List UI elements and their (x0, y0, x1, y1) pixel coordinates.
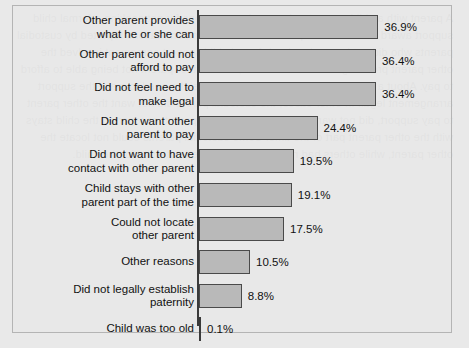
bar-category-label: Did not want other parent to pay (14, 114, 194, 141)
bar-chart-row: Child stays with other parent part of th… (13, 183, 453, 207)
bar-chart-row: Did not want other parent to pay24.4% (13, 116, 453, 140)
bar-value-label: 24.4% (324, 122, 357, 134)
bar-chart-row: Other reasons10.5% (13, 250, 453, 274)
bar-chart-row: Other parent could not afford to pay36.4… (13, 49, 453, 73)
bar-category-label: Other parent provides what he or she can (14, 14, 194, 41)
bar-category-label: Did not feel need to make legal (14, 81, 194, 108)
bar-value-label: 19.1% (298, 189, 331, 201)
bar-category-label: Did not want to have contact with other … (14, 148, 194, 175)
bar (199, 217, 284, 241)
bar-category-label: Other parent could not afford to pay (14, 47, 194, 74)
bar-category-label: Child was too old (14, 323, 194, 337)
bar-value-label: 19.5% (300, 155, 333, 167)
bar (199, 284, 242, 308)
bar-chart-row: Child was too old0.1% (13, 317, 453, 341)
bar (199, 183, 292, 207)
bar-chart-row: Did not legally establish paternity8.8% (13, 284, 453, 308)
bar (199, 149, 294, 173)
value-axis-baseline (197, 10, 199, 326)
bar (199, 15, 378, 39)
bar-value-label: 36.4% (382, 55, 415, 67)
bar-category-label: Could not locate other parent (14, 215, 194, 242)
bar (199, 250, 250, 274)
bar-chart-row: Could not locate other parent17.5% (13, 217, 453, 241)
bar-value-label: 36.9% (384, 21, 417, 33)
bar (199, 317, 201, 341)
bar (199, 82, 376, 106)
bar-value-label: 10.5% (256, 256, 289, 268)
bar-category-label: Other reasons (14, 255, 194, 269)
bar-value-label: 0.1% (207, 323, 233, 335)
bar-value-label: 36.4% (382, 88, 415, 100)
bar-chart-plot-area: Other parent provides what he or she can… (13, 6, 453, 334)
chart-frame: Other parent provides what he or she can… (12, 5, 452, 333)
bar-value-label: 17.5% (290, 223, 323, 235)
bar-category-label: Child stays with other parent part of th… (14, 182, 194, 209)
bar-chart-row: Did not want to have contact with other … (13, 149, 453, 173)
bar-chart-row: Did not feel need to make legal36.4% (13, 82, 453, 106)
bar-value-label: 8.8% (248, 290, 274, 302)
bar (199, 116, 318, 140)
bar-chart-row: Other parent provides what he or she can… (13, 15, 453, 39)
bar (199, 49, 376, 73)
bar-category-label: Did not legally establish paternity (14, 282, 194, 309)
